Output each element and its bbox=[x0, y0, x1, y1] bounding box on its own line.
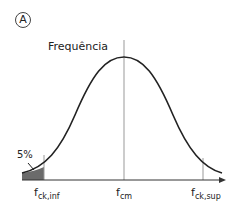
x-tick-fck-inf: fck,inf bbox=[34, 186, 60, 201]
normal-curve bbox=[22, 57, 222, 173]
percent-pointer bbox=[28, 163, 34, 170]
bell-curve-chart bbox=[0, 0, 241, 213]
x-tick-fcm: fcm bbox=[116, 186, 132, 201]
x-axis-arrow-icon bbox=[219, 177, 226, 183]
x-tick-fck-sup: fck,sup bbox=[191, 186, 221, 201]
